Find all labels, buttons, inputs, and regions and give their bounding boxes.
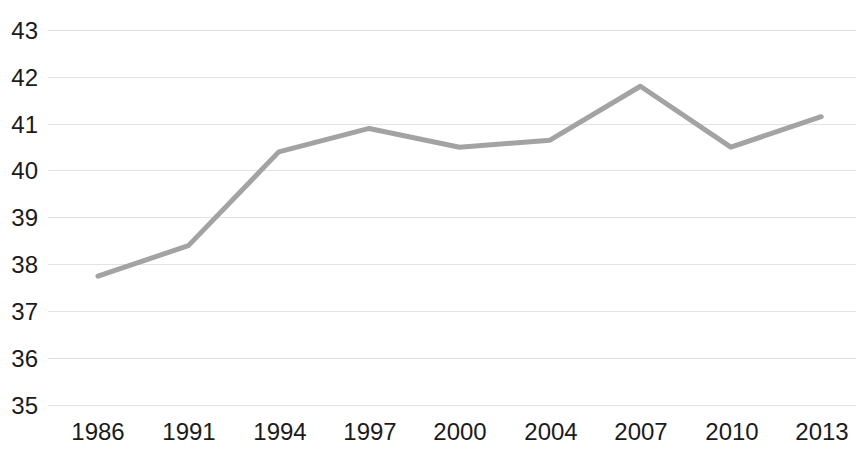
plot-area: 43 42 41 40 39 38 37 36 35 1986 1991 199… xyxy=(0,0,867,455)
y-tick-label-37: 37 xyxy=(0,300,38,324)
x-tick-label-2000: 2000 xyxy=(415,420,505,444)
gridline-38 xyxy=(48,264,856,265)
y-tick-label-41: 41 xyxy=(0,113,38,137)
x-tick-label-2013: 2013 xyxy=(777,420,867,444)
gridline-37 xyxy=(48,311,856,312)
y-tick-label-36: 36 xyxy=(0,347,38,371)
series-line xyxy=(98,86,821,276)
y-tick-label-43: 43 xyxy=(0,19,38,43)
gridline-39 xyxy=(48,217,856,218)
gridline-36 xyxy=(48,358,856,359)
y-tick-label-40: 40 xyxy=(0,159,38,183)
y-tick-label-38: 38 xyxy=(0,253,38,277)
y-tick-label-39: 39 xyxy=(0,206,38,230)
x-tick-label-1991: 1991 xyxy=(144,420,234,444)
x-tick-label-1997: 1997 xyxy=(325,420,415,444)
x-tick-label-2010: 2010 xyxy=(687,420,777,444)
gridline-43 xyxy=(48,30,856,31)
gridline-41 xyxy=(48,124,856,125)
x-tick-label-1994: 1994 xyxy=(235,420,325,444)
x-tick-label-2004: 2004 xyxy=(506,420,596,444)
x-tick-label-2007: 2007 xyxy=(596,420,686,444)
line-chart: 43 42 41 40 39 38 37 36 35 1986 1991 199… xyxy=(0,0,867,455)
y-tick-label-35: 35 xyxy=(0,394,38,418)
gridline-42 xyxy=(48,77,856,78)
y-tick-label-42: 42 xyxy=(0,66,38,90)
gridline-35 xyxy=(48,405,856,406)
gridline-40 xyxy=(48,170,856,171)
series-line-layer xyxy=(0,0,867,455)
x-tick-label-1986: 1986 xyxy=(53,420,143,444)
